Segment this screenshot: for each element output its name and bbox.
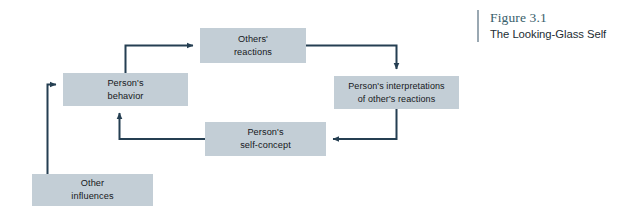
node-persons-behavior: Person's behavior	[63, 73, 188, 106]
figure-caption: Figure 3.1 The Looking-Glass Self	[477, 10, 617, 42]
connector-other-influences-to-behavior	[48, 85, 57, 175]
node-others-reactions: Others' reactions	[200, 28, 306, 63]
node-persons-interpretations: Person's interpretations of other's reac…	[334, 76, 459, 109]
connector-behavior-to-reactions	[126, 46, 194, 74]
node-persons-interpretations-label: Person's interpretations of other's reac…	[344, 80, 448, 105]
figure-container: Others' reactions Person's behavior Pers…	[0, 0, 625, 220]
node-other-influences: Other influences	[32, 174, 153, 206]
node-persons-behavior-label: Person's behavior	[103, 77, 147, 102]
figure-title: The Looking-Glass Self	[490, 27, 617, 42]
connector-reactions-to-interpretations	[306, 46, 397, 70]
figure-number: Figure 3.1	[490, 10, 617, 26]
node-persons-self-concept: Person's self-concept	[205, 122, 326, 156]
connector-self-concept-to-behavior	[120, 113, 206, 139]
looking-glass-self-diagram: Others' reactions Person's behavior Pers…	[0, 0, 470, 220]
node-other-influences-label: Other influences	[67, 177, 117, 202]
node-others-reactions-label: Others' reactions	[230, 33, 276, 58]
connector-interpretations-to-self-concept	[333, 109, 397, 139]
node-persons-self-concept-label: Person's self-concept	[236, 126, 295, 151]
